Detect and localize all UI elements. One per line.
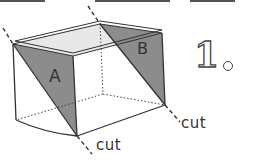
figure-number: 1 xyxy=(194,33,219,75)
cut-label-front: cut xyxy=(96,136,121,154)
figure-number-dot xyxy=(223,61,233,71)
face-label-b: B xyxy=(137,39,148,58)
face-label-a: A xyxy=(49,66,61,86)
cube-diagram xyxy=(0,0,254,162)
cut-label-back: cut xyxy=(181,114,206,132)
